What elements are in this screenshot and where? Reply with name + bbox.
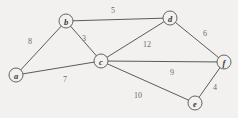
node-label-c: c <box>99 57 103 67</box>
graph-node-e: e <box>188 96 202 110</box>
edges-layer <box>21 18 220 100</box>
graph-edge-df <box>175 22 218 57</box>
weighted-graph-figure: 87351291064 abcdef <box>0 0 238 118</box>
graph-node-c: c <box>94 54 108 68</box>
edge-weight-ef: 4 <box>213 83 217 92</box>
graph-node-b: b <box>59 14 73 28</box>
graph-edge-cd <box>107 22 164 58</box>
edge-weight-bc: 3 <box>82 34 86 43</box>
edge-weight-cd: 12 <box>143 40 151 49</box>
graph-edge-cf <box>108 61 217 62</box>
graph-edge-bd <box>73 18 163 21</box>
graph-edge-ce <box>107 64 188 100</box>
graph-edge-ac <box>23 62 94 74</box>
graph-node-a: a <box>9 68 23 82</box>
node-label-e: e <box>193 99 197 109</box>
graph-node-d: d <box>163 11 177 25</box>
edge-weight-ab: 8 <box>28 37 32 46</box>
edge-weight-ac: 7 <box>63 75 67 84</box>
node-label-b: b <box>64 17 68 27</box>
edge-weight-cf: 9 <box>170 68 174 77</box>
graph-canvas: 87351291064 abcdef <box>0 0 238 118</box>
edge-weight-df: 6 <box>203 29 207 38</box>
graph-node-f: f <box>217 55 231 69</box>
graph-edge-ab <box>21 26 61 70</box>
edge-weight-ce: 10 <box>134 91 142 100</box>
edge-weight-bd: 5 <box>111 6 115 15</box>
nodes-layer: abcdef <box>9 11 231 110</box>
